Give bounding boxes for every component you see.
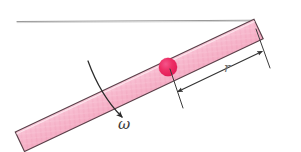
omega-label: ω (118, 115, 130, 133)
radius-label: r (224, 60, 231, 75)
physics-diagram-rotating-rod: ω r (0, 0, 301, 152)
bead-mass (159, 58, 177, 76)
diagram-canvas: ω r (0, 0, 301, 152)
